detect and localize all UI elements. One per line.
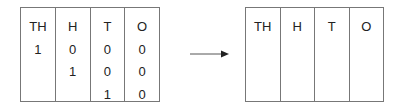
header-h: H xyxy=(56,19,90,34)
column-ones: O xyxy=(349,8,384,101)
target-place-value-table: TH H T O xyxy=(245,7,384,102)
header-o: O xyxy=(350,19,384,34)
column-thousands: TH xyxy=(246,8,280,101)
column-hundreds: H xyxy=(280,8,315,101)
cell: 0 xyxy=(56,42,90,57)
cell: 0 xyxy=(125,42,159,57)
column-thousands: TH 1 xyxy=(21,8,55,101)
cell: 1 xyxy=(56,64,90,79)
cell: 1 xyxy=(91,87,125,102)
cell: 0 xyxy=(91,42,125,57)
column-tens: T 0 0 1 xyxy=(90,8,125,101)
header-t: T xyxy=(91,19,125,34)
header-th: TH xyxy=(246,19,280,34)
header-o: O xyxy=(125,19,159,34)
header-th: TH xyxy=(21,19,55,34)
header-t: T xyxy=(315,19,349,34)
column-ones: O 0 0 0 xyxy=(124,8,159,101)
source-place-value-table: TH 1 H 0 1 T 0 0 1 O 0 0 0 xyxy=(20,7,160,102)
cell: 0 xyxy=(125,87,159,102)
column-hundreds: H 0 1 xyxy=(55,8,90,101)
arrow-right-icon xyxy=(190,50,230,58)
cell: 0 xyxy=(91,64,125,79)
column-tens: T xyxy=(314,8,349,101)
header-h: H xyxy=(281,19,315,34)
cell: 1 xyxy=(21,42,55,57)
cell: 0 xyxy=(125,64,159,79)
